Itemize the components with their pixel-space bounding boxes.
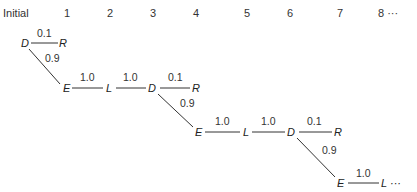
prob-label: 0.1 bbox=[307, 115, 322, 127]
stage-label-2: 2 bbox=[107, 7, 113, 19]
prob-label: 1.0 bbox=[123, 71, 138, 83]
transition-diagram: Initial 1 2 3 4 5 6 7 8 ··· 0.1 0.9 1.0 … bbox=[0, 0, 417, 192]
stage-header: Initial 1 2 3 4 5 6 7 8 ··· bbox=[3, 7, 398, 19]
node-l: L bbox=[106, 82, 112, 94]
node-r: R bbox=[192, 82, 200, 94]
stage-label-3: 3 bbox=[150, 7, 156, 19]
node-e: E bbox=[195, 126, 203, 138]
stage-label-1: 1 bbox=[64, 7, 70, 19]
node-d: D bbox=[148, 82, 156, 94]
node-l-continued: L ··· bbox=[381, 177, 401, 189]
node-l: L bbox=[243, 126, 249, 138]
prob-label: 0.1 bbox=[37, 27, 52, 39]
prob-label: 1.0 bbox=[215, 115, 230, 127]
stage-label-5: 5 bbox=[244, 7, 250, 19]
node-e: E bbox=[63, 82, 71, 94]
stage-label-initial: Initial bbox=[3, 7, 29, 19]
edge-probabilities: 0.1 0.9 1.0 1.0 0.1 0.9 1.0 1.0 0.1 0.9 … bbox=[37, 27, 371, 179]
node-d: D bbox=[21, 37, 29, 49]
stage-label-7: 7 bbox=[337, 7, 343, 19]
prob-label: 0.1 bbox=[168, 71, 183, 83]
prob-label: 0.9 bbox=[180, 97, 195, 109]
node-r: R bbox=[334, 126, 342, 138]
prob-label: 0.9 bbox=[45, 52, 60, 64]
stage-label-8: 8 ··· bbox=[378, 7, 398, 19]
prob-label: 1.0 bbox=[261, 115, 276, 127]
edges bbox=[29, 43, 379, 183]
stage-label-6: 6 bbox=[287, 7, 293, 19]
prob-label: 1.0 bbox=[80, 71, 95, 83]
prob-label: 1.0 bbox=[356, 167, 371, 179]
node-d: D bbox=[287, 126, 295, 138]
nodes: D R E L D R E L D R E L ··· bbox=[21, 37, 401, 189]
prob-label: 0.9 bbox=[322, 144, 337, 156]
stage-label-4: 4 bbox=[193, 7, 199, 19]
node-r: R bbox=[59, 37, 67, 49]
node-e: E bbox=[337, 177, 345, 189]
